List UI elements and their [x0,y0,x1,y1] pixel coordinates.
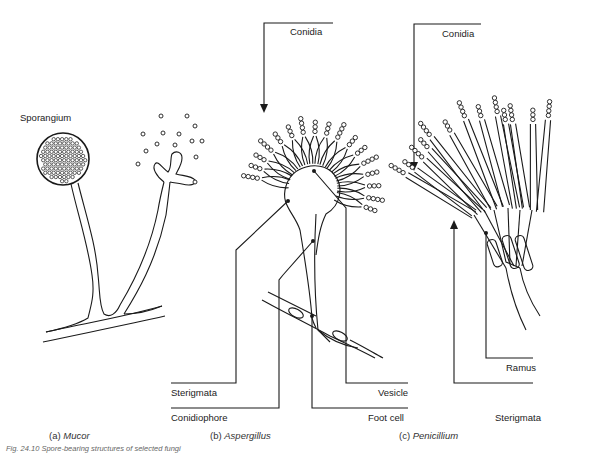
aspergillus-drawing [171,23,408,408]
figure-caption: Fig. 24.10 Spore-bearing structures of s… [6,444,181,453]
fungi-diagram [0,0,591,453]
released-spores [136,114,204,184]
phialide-cluster [389,96,552,272]
caption-prefix: (c) [399,430,410,441]
label-penicillium-conidia: Conidia [442,28,474,39]
penicillium-drawing [389,24,552,383]
caption-prefix: (b) [210,430,222,441]
label-vesicle: Vesicle [378,387,408,398]
caption-organism: Penicillium [413,430,458,441]
caption-panel-b: (b) Aspergillus [210,430,271,441]
label-sporangium: Sporangium [20,112,71,123]
caption-organism: Mucor [63,430,89,441]
label-ramus: Ramus [506,362,536,373]
label-aspergillus-conidia: Conidia [290,26,322,37]
mucor-drawing [37,114,204,342]
label-penicillium-sterigmata: Sterigmata [495,412,541,423]
sterigmata-cluster [241,116,384,212]
caption-prefix: (a) [49,430,61,441]
label-aspergillus-sterigmata: Sterigmata [171,387,217,398]
caption-panel-a: (a) Mucor [49,430,90,441]
label-conidiophore: Conidiophore [171,412,228,423]
caption-organism: Aspergillus [224,430,270,441]
label-foot-cell: Foot cell [368,412,404,423]
caption-panel-c: (c) Penicillium [399,430,458,441]
